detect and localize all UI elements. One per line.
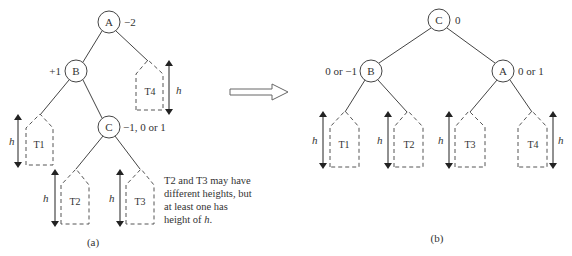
subtree-label: T1 xyxy=(33,139,44,150)
height-note: T2 and T3 may have different heights, bu… xyxy=(164,175,252,225)
subtree-label: T2 xyxy=(403,139,414,150)
node-label: C xyxy=(435,14,442,26)
subtree-t3: T3 h xyxy=(438,111,485,167)
edge-b-t2 xyxy=(378,80,407,112)
height-label: h xyxy=(438,134,444,146)
balance-factor: +1 xyxy=(49,65,61,77)
balance-factor: −2 xyxy=(124,16,136,28)
subtree-t2: T2 h xyxy=(43,169,89,224)
node-label: B xyxy=(72,65,79,77)
subtree-t1: T1 h xyxy=(9,114,53,165)
note-line: different heights, but xyxy=(164,188,252,199)
edge-b-t1 xyxy=(40,80,69,115)
height-label: h xyxy=(176,84,182,96)
edge-c-a xyxy=(447,28,495,63)
height-label: h xyxy=(377,134,383,146)
caption-a: (a) xyxy=(87,236,100,249)
balance-factor: −1, 0 or 1 xyxy=(123,121,166,133)
height-label: h xyxy=(43,192,49,204)
node-label: A xyxy=(499,65,507,77)
node-a: A 0 or 1 xyxy=(492,60,544,82)
note-line: height of h. xyxy=(164,214,212,225)
caption-b: (b) xyxy=(431,232,444,245)
subtree-t2: T2 h xyxy=(377,111,423,167)
balance-factor: 0 or 1 xyxy=(518,65,544,77)
node-label: C xyxy=(105,121,112,133)
node-c: C 0 xyxy=(428,9,461,31)
node-c: C −1, 0 or 1 xyxy=(98,116,166,138)
diagram-b: C 0 B 0 or −1 A 0 or 1 T1 h T2 h T3 xyxy=(312,9,564,245)
edge-a-t3 xyxy=(470,80,497,112)
diagram-a: A −2 B +1 C −1, 0 or 1 T4 h T1 h T2 xyxy=(9,11,252,249)
edge-c-t3 xyxy=(115,136,140,169)
edge-c-b xyxy=(379,28,431,63)
height-label: h xyxy=(558,134,564,146)
balance-factor: 0 xyxy=(455,14,461,26)
edge-b-c xyxy=(83,80,102,118)
edge-a-t4 xyxy=(510,80,532,112)
subtree-label: T4 xyxy=(527,139,538,150)
subtree-label: T1 xyxy=(338,139,349,150)
subtree-t3: T3 h xyxy=(109,169,154,224)
balance-factor: 0 or −1 xyxy=(325,65,357,77)
node-a: A −2 xyxy=(98,11,136,33)
subtree-t4: T4 h xyxy=(136,60,182,112)
height-label: h xyxy=(9,135,15,147)
node-label: A xyxy=(105,16,113,28)
subtree-label: T4 xyxy=(144,86,155,97)
height-label: h xyxy=(312,134,318,146)
subtree-t4: T4 h xyxy=(518,111,564,167)
subtree-label: T3 xyxy=(134,196,145,207)
note-line: T2 and T3 may have xyxy=(164,175,251,186)
edge-b-t1 xyxy=(345,80,365,112)
note-line: at least one has xyxy=(164,201,228,212)
edge-c-t2 xyxy=(76,136,103,169)
edge-a-b xyxy=(83,31,102,62)
subtree-label: T2 xyxy=(69,196,80,207)
avl-rotation-diagram: A −2 B +1 C −1, 0 or 1 T4 h T1 h T2 xyxy=(0,0,572,256)
node-b: B +1 xyxy=(49,60,87,82)
subtree-t1: T1 h xyxy=(312,111,359,167)
node-label: B xyxy=(367,65,374,77)
edge-a-t4 xyxy=(116,31,148,61)
hollow-right-arrow-icon xyxy=(230,84,288,100)
node-b: B 0 or −1 xyxy=(325,60,382,82)
subtree-label: T3 xyxy=(464,139,475,150)
height-label: h xyxy=(109,192,115,204)
